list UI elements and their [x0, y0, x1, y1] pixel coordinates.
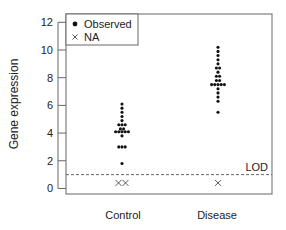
observed-point	[216, 62, 219, 65]
observed-point	[120, 111, 123, 114]
observed-point	[216, 111, 219, 114]
observed-point	[124, 123, 127, 126]
y-tick-label: 10	[41, 44, 53, 56]
observed-point	[117, 145, 120, 148]
observed-point	[216, 54, 219, 57]
observed-point	[124, 145, 127, 148]
observed-point	[124, 130, 127, 133]
observed-point	[216, 91, 219, 94]
na-marker-icon	[215, 180, 221, 186]
observed-point	[120, 130, 123, 133]
na-marker-icon	[116, 180, 122, 186]
observed-point	[127, 130, 130, 133]
observed-point	[210, 83, 213, 86]
observed-point	[216, 83, 219, 86]
observed-point	[117, 123, 120, 126]
legend: Observed NA	[66, 14, 138, 45]
observed-point	[216, 46, 219, 49]
observed-point	[120, 134, 123, 137]
observed-point	[216, 50, 219, 53]
observed-point	[216, 87, 219, 90]
observed-point	[218, 66, 221, 69]
observed-point	[120, 119, 123, 122]
y-tick-label: 6	[47, 99, 53, 111]
observed-point	[216, 71, 219, 74]
observed-point	[120, 115, 123, 118]
observed-point	[114, 130, 117, 133]
observed-point	[119, 127, 122, 130]
observed-point	[215, 66, 218, 69]
observed-point	[120, 123, 123, 126]
observed-point	[120, 162, 123, 165]
y-tick-label: 2	[47, 155, 53, 167]
observed-point	[215, 79, 218, 82]
legend-observed-marker-icon	[73, 22, 78, 27]
observed-point	[120, 107, 123, 110]
data-points	[114, 46, 226, 186]
legend-na-label: NA	[84, 31, 100, 43]
observed-point	[220, 83, 223, 86]
x-category-control: Control	[105, 209, 140, 221]
observed-point	[213, 83, 216, 86]
y-axis: 024681012	[41, 16, 66, 194]
observed-point	[218, 79, 221, 82]
observed-point	[120, 145, 123, 148]
observed-point	[216, 100, 219, 103]
gene-expression-chart: 024681012 Gene expression LOD Observed N…	[0, 0, 286, 230]
y-tick-label: 12	[41, 16, 53, 28]
observed-point	[117, 130, 120, 133]
observed-point	[223, 83, 226, 86]
lod-label: LOD	[245, 161, 268, 173]
y-tick-label: 8	[47, 72, 53, 84]
y-tick-label: 4	[47, 127, 53, 139]
observed-point	[216, 58, 219, 61]
x-category-disease: Disease	[197, 209, 237, 221]
observed-point	[218, 75, 221, 78]
observed-point	[215, 75, 218, 78]
y-tick-label: 0	[47, 182, 53, 194]
observed-point	[120, 102, 123, 105]
legend-observed-label: Observed	[84, 18, 132, 30]
observed-point	[122, 127, 125, 130]
y-axis-label: Gene expression	[7, 59, 21, 150]
observed-point	[216, 96, 219, 99]
na-marker-icon	[123, 180, 129, 186]
